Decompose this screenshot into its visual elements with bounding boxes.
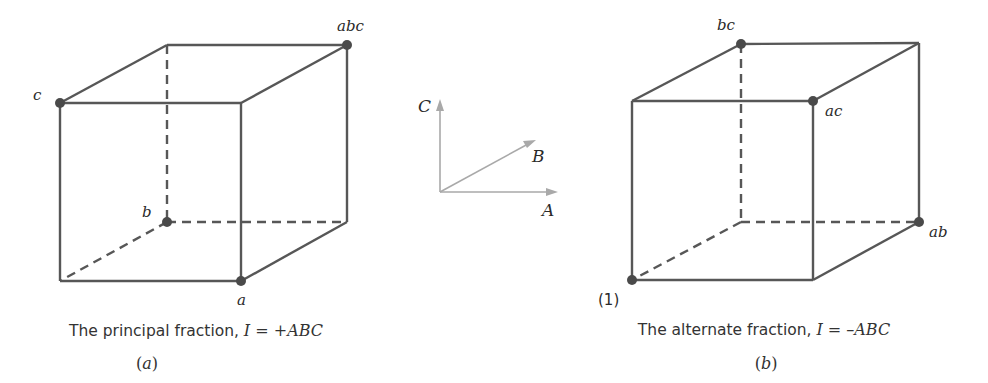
panel-label-b: (b) <box>755 354 778 373</box>
vertex-label-a: a <box>237 291 246 309</box>
vertex-label-bc: bc <box>717 16 736 34</box>
axis-label-b: B <box>531 146 545 166</box>
caption-prefix: The principal fraction, <box>68 322 244 340</box>
vertex-a-dot <box>236 276 246 286</box>
caption-principal-fraction: The principal fraction, I = +ABC <box>68 321 323 340</box>
panel-label-a: (a) <box>136 354 158 373</box>
axes-legend: C B A <box>418 96 558 220</box>
vertex-label-ab: ab <box>929 223 948 241</box>
edge-bottom-right-diagonal <box>241 222 347 281</box>
vertex-label-ac: ac <box>825 102 843 120</box>
edge-top-left-diagonal <box>60 45 167 103</box>
vertex-b-dot <box>162 217 172 227</box>
edge-top-left-diagonal <box>632 44 741 101</box>
fractional-factorial-diagram: c abc b a The principal fraction, I = +A… <box>0 0 988 383</box>
axis-label-a: A <box>540 200 554 220</box>
vertex-one-dot <box>627 275 637 285</box>
caption-alternate-fraction: The alternate fraction, I = –ABC <box>637 320 890 339</box>
vertex-bc-dot <box>736 39 746 49</box>
vertex-abc-dot <box>342 40 352 50</box>
caption-math: I = –ABC <box>815 320 890 339</box>
edge-top-right-diagonal <box>813 43 919 101</box>
vertex-c-dot <box>55 98 65 108</box>
vertex-label-one: (1) <box>598 291 619 309</box>
cube-alternate-fraction: bc ac ab (1) The alternate fraction, I =… <box>598 16 948 373</box>
caption-math: I = +ABC <box>243 321 323 340</box>
hidden-edge-bottom-diagonal <box>60 222 167 281</box>
axis-c-arrowhead <box>436 99 444 111</box>
vertex-ab-dot <box>914 217 924 227</box>
vertex-label-b: b <box>142 203 152 221</box>
edge-back-top <box>741 43 919 44</box>
hidden-edge-bottom-diagonal <box>632 222 741 280</box>
vertex-label-abc: abc <box>337 17 365 35</box>
axis-label-c: C <box>418 96 431 116</box>
cube-principal-fraction: c abc b a The principal fraction, I = +A… <box>33 17 365 373</box>
axis-b-line <box>440 144 528 192</box>
caption-prefix: The alternate fraction, <box>637 321 817 339</box>
axis-a-arrowhead <box>546 188 558 196</box>
edge-top-right-diagonal <box>241 45 347 103</box>
vertex-label-c: c <box>33 86 42 104</box>
edge-bottom-right-diagonal <box>813 222 919 280</box>
vertex-ac-dot <box>808 96 818 106</box>
